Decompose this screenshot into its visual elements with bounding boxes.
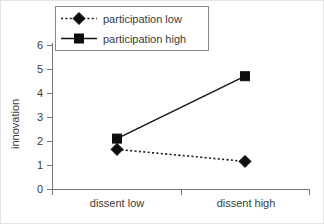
legend-label-high: participation high	[103, 33, 186, 45]
x-category-label-0: dissent low	[90, 197, 144, 209]
legend-swatch-marker-high	[75, 34, 84, 43]
line-chart: 6 5 4 3 2 1 0 innovation dissent low dis…	[1, 1, 324, 224]
series-high-marker-0	[113, 134, 122, 143]
y-tick-label-0: 0	[37, 183, 43, 195]
legend-label-low: participation low	[103, 13, 182, 25]
series-low-line	[117, 149, 245, 161]
x-category-label-1: dissent high	[217, 197, 276, 209]
chart-figure: 6 5 4 3 2 1 0 innovation dissent low dis…	[0, 0, 324, 224]
series-low-marker-0	[111, 143, 123, 155]
series-high-marker-1	[241, 72, 250, 81]
y-tick-label-4: 4	[37, 87, 43, 99]
y-tick-label-2: 2	[37, 135, 43, 147]
y-axis-title: innovation	[9, 99, 21, 149]
y-tick-label-1: 1	[37, 159, 43, 171]
series-high-line	[117, 76, 245, 138]
series-low-marker-1	[239, 155, 251, 167]
y-tick-label-5: 5	[37, 63, 43, 75]
y-tick-label-6: 6	[37, 39, 43, 51]
y-tick-label-3: 3	[37, 111, 43, 123]
